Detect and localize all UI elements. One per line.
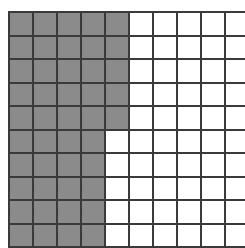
shaded-cell — [82, 37, 106, 61]
shaded-cell — [58, 178, 82, 202]
empty-cell — [154, 154, 178, 178]
empty-cell — [130, 201, 154, 225]
empty-cell — [226, 107, 245, 131]
empty-cell — [178, 84, 202, 108]
shaded-cell — [82, 131, 106, 155]
shaded-cell — [58, 84, 82, 108]
empty-cell — [130, 60, 154, 84]
shaded-cell — [58, 13, 82, 37]
shaded-cell — [58, 131, 82, 155]
empty-cell — [226, 225, 245, 248]
empty-cell — [130, 154, 154, 178]
shaded-cell — [58, 60, 82, 84]
empty-cell — [202, 37, 226, 61]
empty-cell — [154, 13, 178, 37]
empty-cell — [202, 13, 226, 37]
shaded-cell — [10, 225, 34, 248]
shaded-cell — [82, 60, 106, 84]
empty-cell — [154, 201, 178, 225]
shaded-cell — [106, 37, 130, 61]
empty-cell — [154, 84, 178, 108]
empty-cell — [154, 107, 178, 131]
shaded-cell — [10, 60, 34, 84]
shaded-cell — [10, 178, 34, 202]
empty-cell — [226, 37, 245, 61]
shaded-cell — [82, 84, 106, 108]
empty-cell — [202, 131, 226, 155]
empty-cell — [130, 84, 154, 108]
shaded-cell — [10, 84, 34, 108]
empty-cell — [226, 131, 245, 155]
empty-cell — [106, 154, 130, 178]
empty-cell — [178, 178, 202, 202]
empty-cell — [106, 225, 130, 248]
shaded-cell — [34, 107, 58, 131]
shaded-cell — [82, 225, 106, 248]
shaded-cell — [10, 37, 34, 61]
empty-cell — [106, 131, 130, 155]
shaded-cell — [34, 60, 58, 84]
empty-cell — [202, 84, 226, 108]
shaded-cell — [58, 37, 82, 61]
shaded-cell — [58, 201, 82, 225]
empty-cell — [226, 178, 245, 202]
shaded-cell — [34, 37, 58, 61]
shaded-cell — [10, 13, 34, 37]
empty-cell — [154, 178, 178, 202]
shaded-cell — [10, 154, 34, 178]
empty-cell — [130, 37, 154, 61]
empty-cell — [202, 107, 226, 131]
shaded-cell — [58, 225, 82, 248]
empty-cell — [154, 225, 178, 248]
empty-cell — [106, 178, 130, 202]
empty-cell — [226, 84, 245, 108]
empty-cell — [154, 37, 178, 61]
empty-cell — [178, 154, 202, 178]
shaded-cell — [82, 13, 106, 37]
hundred-grid — [8, 11, 245, 248]
empty-cell — [178, 13, 202, 37]
shaded-cell — [58, 107, 82, 131]
shaded-cell — [34, 13, 58, 37]
empty-cell — [178, 60, 202, 84]
shaded-cell — [106, 60, 130, 84]
empty-cell — [154, 131, 178, 155]
shaded-cell — [34, 131, 58, 155]
shaded-cell — [34, 178, 58, 202]
shaded-cell — [34, 201, 58, 225]
shaded-cell — [82, 178, 106, 202]
empty-cell — [178, 107, 202, 131]
empty-cell — [226, 154, 245, 178]
shaded-cell — [58, 154, 82, 178]
empty-cell — [130, 225, 154, 248]
empty-cell — [130, 131, 154, 155]
empty-cell — [154, 60, 178, 84]
shaded-cell — [10, 131, 34, 155]
empty-cell — [178, 225, 202, 248]
empty-cell — [202, 201, 226, 225]
shaded-cell — [82, 107, 106, 131]
shaded-cell — [10, 201, 34, 225]
shaded-cell — [106, 84, 130, 108]
shaded-cell — [34, 84, 58, 108]
empty-cell — [202, 178, 226, 202]
empty-cell — [130, 13, 154, 37]
empty-cell — [226, 13, 245, 37]
empty-cell — [130, 107, 154, 131]
empty-cell — [226, 60, 245, 84]
empty-cell — [130, 178, 154, 202]
shaded-cell — [34, 225, 58, 248]
empty-cell — [178, 37, 202, 61]
shaded-cell — [10, 107, 34, 131]
shaded-cell — [34, 154, 58, 178]
shaded-cell — [106, 107, 130, 131]
empty-cell — [178, 131, 202, 155]
shaded-cell — [82, 154, 106, 178]
empty-cell — [106, 201, 130, 225]
empty-cell — [202, 154, 226, 178]
shaded-cell — [106, 13, 130, 37]
empty-cell — [202, 60, 226, 84]
empty-cell — [202, 225, 226, 248]
empty-cell — [226, 201, 245, 225]
shaded-cell — [82, 201, 106, 225]
